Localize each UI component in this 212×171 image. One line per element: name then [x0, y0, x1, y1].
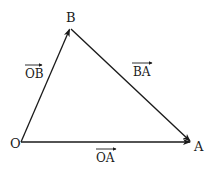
vector-ob-arrow — [21, 30, 70, 143]
vector-label-ba-group: BA — [132, 63, 152, 79]
vector-label-oa: OA — [96, 151, 115, 165]
vector-label-ob: OB — [25, 67, 44, 81]
vector-label-ob-group: OB — [25, 65, 44, 81]
vector-triangle-diagram: O B A OB BA OA — [0, 0, 212, 171]
point-label-o: O — [10, 136, 21, 151]
point-label-b: B — [66, 10, 76, 25]
point-label-a: A — [193, 139, 204, 154]
vector-label-oa-group: OA — [96, 149, 116, 165]
vector-ba-arrow — [71, 29, 190, 141]
vector-label-ba: BA — [133, 65, 151, 79]
